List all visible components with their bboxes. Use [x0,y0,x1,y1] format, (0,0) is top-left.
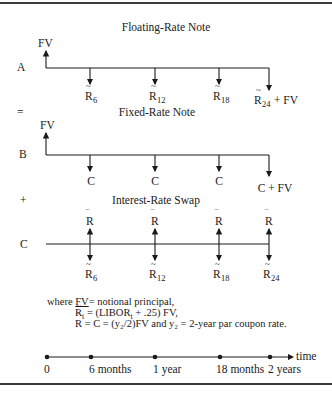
svg-text:R: R [213,268,221,280]
svg-text:R: R [213,90,221,102]
tick-label-0: 0 [44,363,50,375]
row-label-b: B [19,148,27,160]
flow-label-b-0: C [87,175,95,187]
svg-text:R: R [85,90,93,102]
flow-label-b-1: C [151,175,159,187]
swap-receive-labels: ‾ R ‾ R ‾ R ‾ R [85,208,273,227]
flow-label-a-2: ~ R 18 [213,81,230,105]
svg-text:R: R [263,268,271,280]
section-title-swap: Interest-Rate Swap [112,194,200,207]
svg-text:R: R [149,268,157,280]
tick-label-2: 1 year [153,363,182,376]
tick-label-4: 2 years [268,363,301,376]
svg-text:R: R [86,215,94,227]
principal-label-a: FV [38,37,53,49]
time-point-dot [218,355,223,360]
definition-floating-rate: ~Rt = (LIBORt + .25) FV, [47,307,287,318]
section-title-floating: Floating-Rate Note [122,21,210,34]
floating-rate-note-section: Floating-Rate Note FV A ~ R 6 ~ R 12 ~ R… [17,21,299,109]
svg-text:12: 12 [157,273,166,283]
svg-text:R: R [85,268,93,280]
swap-pay-labels: ~ R 6 ~ R 12 ~ R 18 ~ R 24 [85,259,280,283]
svg-text:18: 18 [221,273,230,283]
flow-label-b-2: C [215,175,223,187]
flow-label-a-3: ~ R 24 + FV [254,85,299,109]
svg-text:R: R [254,94,262,106]
svg-text:R: R [215,215,223,227]
svg-text:18: 18 [221,95,230,105]
time-axis: time 0 6 months 1 year 18 months 2 years [44,350,316,376]
swap-cashflow-diagram: Floating-Rate Note FV A ~ R 6 ~ R 12 ~ R… [0,0,332,394]
flow-label-a-1: ~ R 12 [149,81,166,105]
time-point-dot [89,355,94,360]
tick-label-1: 6 months [89,363,132,375]
fixed-rate-note-section: Fixed-Rate Note FV B C C C C + FV [19,106,293,194]
flow-label-b-3: C + FV [258,182,293,194]
bottom-border [0,383,332,385]
section-title-fixed: Fixed-Rate Note [119,106,195,118]
svg-text:6: 6 [93,273,97,283]
svg-text:R: R [149,90,157,102]
interest-rate-swap-section: Interest-Rate Swap C ‾ R ‾ R ‾ R ‾ R ~ R… [20,194,280,283]
definition-fv: where FV= notional principal, [47,296,287,307]
time-point-dot [268,355,273,360]
svg-text:+ FV: + FV [271,94,299,106]
row-label-a: A [17,61,26,73]
definitions-legend: where FV= notional principal, ~Rt = (LIB… [47,296,287,329]
time-point-dot [45,355,50,360]
row-label-c: C [20,238,28,250]
time-point-dot [153,355,158,360]
svg-text:12: 12 [157,95,166,105]
tick-label-3: 18 months [216,363,265,375]
svg-text:6: 6 [93,95,97,105]
svg-text:R: R [265,215,273,227]
svg-text:R: R [151,215,159,227]
time-axis-label: time [296,350,316,362]
equals-operator: = [17,106,24,118]
flow-label-a-0: ~ R 6 [85,81,97,105]
svg-text:24: 24 [271,273,280,283]
plus-operator: + [20,194,27,206]
principal-label-b: FV [40,119,55,131]
svg-text:24: 24 [262,99,271,109]
